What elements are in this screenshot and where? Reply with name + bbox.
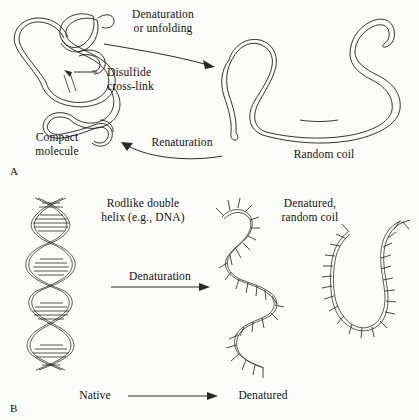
label-native: Native bbox=[70, 389, 120, 403]
label-denatured: Denatured bbox=[225, 389, 301, 403]
panel-b-denaturation-arrow bbox=[111, 283, 210, 291]
label-compact-molecule: Compact molecule bbox=[17, 131, 97, 158]
label-random-coil: Random coil bbox=[277, 148, 371, 162]
denatured-strand-left bbox=[216, 198, 284, 378]
unpaired-base-ticks-left bbox=[216, 198, 284, 378]
native-denatured-arrow bbox=[128, 392, 218, 400]
label-denaturation-unfolding: Denaturation or unfolding bbox=[108, 8, 218, 35]
label-panel-b-denaturation: Denaturation bbox=[110, 270, 210, 284]
unpaired-base-ticks-right bbox=[322, 220, 410, 338]
figure-root: Denaturation or unfolding Disulfide cros… bbox=[0, 0, 419, 420]
panel-letter-b: B bbox=[10, 402, 18, 415]
denatured-strand-right bbox=[322, 220, 410, 338]
compact-molecule bbox=[14, 14, 120, 146]
label-rodlike-double-helix: Rodlike double helix (e.g., DNA) bbox=[83, 197, 203, 224]
label-renaturation: Renaturation bbox=[140, 136, 224, 150]
label-disulfide-cross-link: Disulfide cross-link bbox=[107, 66, 197, 93]
dna-double-helix bbox=[26, 198, 76, 370]
random-coil bbox=[222, 19, 401, 143]
panel-letter-a: A bbox=[10, 165, 18, 178]
base-pair-rungs bbox=[33, 203, 69, 365]
label-denatured-random-coil: Denatured, random coil bbox=[262, 197, 358, 224]
